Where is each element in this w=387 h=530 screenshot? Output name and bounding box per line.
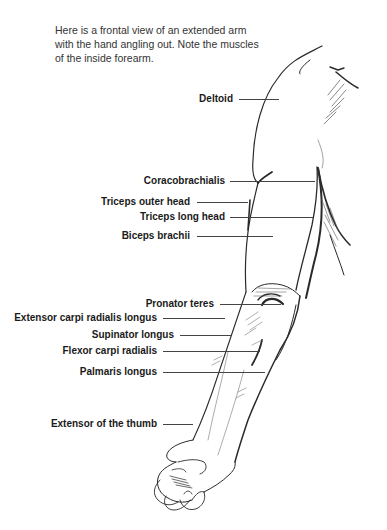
label-palmaris-longus: Palmaris longus bbox=[80, 366, 157, 378]
leader-line-flexor-carpi-radialis bbox=[163, 351, 260, 352]
label-triceps-long-head: Triceps long head bbox=[140, 211, 225, 223]
label-biceps-brachii: Biceps brachii bbox=[122, 230, 190, 242]
label-triceps-outer-head: Triceps outer head bbox=[101, 196, 190, 208]
leader-line-coracobrachialis bbox=[230, 181, 315, 182]
arm-illustration bbox=[0, 0, 387, 530]
label-deltoid: Deltoid bbox=[199, 93, 233, 105]
leader-line-deltoid bbox=[239, 99, 279, 100]
leader-line-extensor-of-the-thumb bbox=[163, 424, 193, 425]
leader-line-supinator-longus bbox=[180, 335, 231, 336]
leader-line-triceps-long-head bbox=[230, 217, 313, 218]
label-extensor-carpi-radialis-longus: Extensor carpi radialis longus bbox=[14, 312, 157, 324]
label-supinator-longus: Supinator longus bbox=[92, 329, 174, 341]
label-coracobrachialis: Coracobrachialis bbox=[144, 175, 225, 187]
label-extensor-of-the-thumb: Extensor of the thumb bbox=[51, 418, 157, 430]
leader-line-pronator-teres bbox=[220, 304, 281, 305]
leader-line-palmaris-longus bbox=[163, 372, 265, 373]
leader-line-extensor-carpi-radialis-longus bbox=[163, 318, 225, 319]
leader-line-biceps-brachii bbox=[197, 236, 273, 237]
label-pronator-teres: Pronator teres bbox=[146, 298, 214, 310]
label-flexor-carpi-radialis: Flexor carpi radialis bbox=[63, 345, 158, 357]
leader-line-triceps-outer-head bbox=[197, 202, 248, 203]
